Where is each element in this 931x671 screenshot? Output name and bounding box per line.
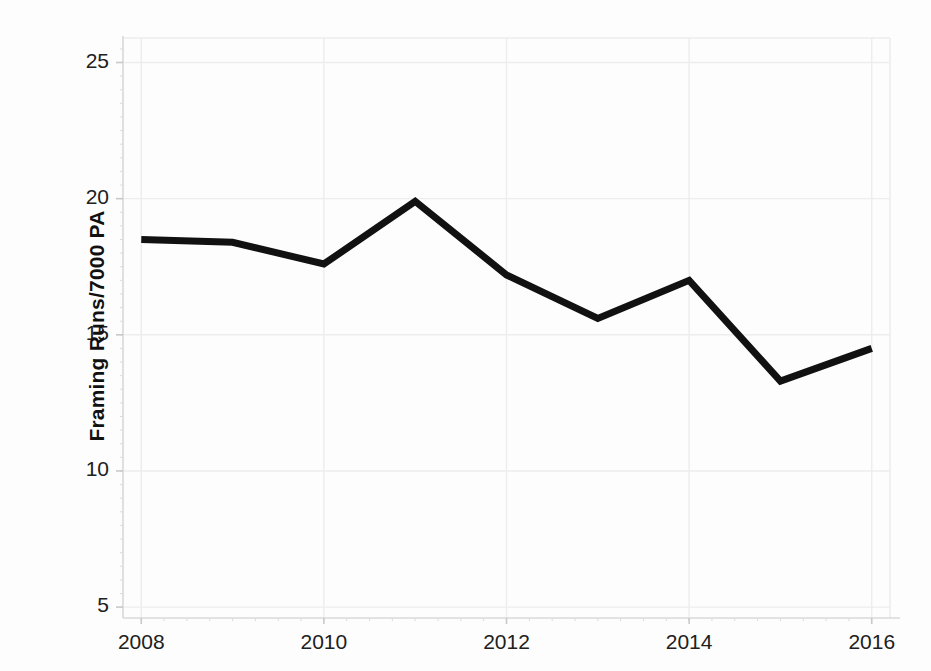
- y-axis-title: Framing Runs/7000 PA: [85, 161, 109, 491]
- x-axis-tick-label: 2010: [279, 630, 369, 654]
- y-axis-tick-label: 5: [63, 593, 109, 617]
- x-axis-tick-label: 2014: [644, 630, 734, 654]
- x-axis-tick-label: 2016: [827, 630, 917, 654]
- y-axis-tick-label: 25: [63, 49, 109, 73]
- axis-spines: [123, 36, 900, 618]
- x-axis-tick-label: 2008: [96, 630, 186, 654]
- line-chart-canvas: [0, 0, 931, 671]
- grid-lines: [123, 38, 890, 618]
- x-axis-tick-label: 2012: [462, 630, 552, 654]
- tick-marks: [116, 49, 872, 624]
- chart-figure: 510152025 20082010201220142016 Framing R…: [0, 0, 931, 671]
